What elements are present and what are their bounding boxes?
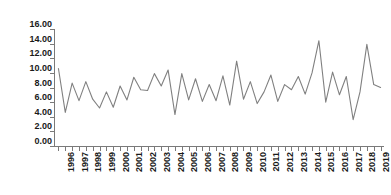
x-tick-mark [319, 147, 320, 151]
x-tick-label-2000: 2000 [121, 152, 131, 192]
x-tick-mark [360, 147, 361, 151]
x-tick-mark [264, 147, 265, 151]
x-tick-label-2017: 2017 [354, 152, 364, 192]
x-tick-label-1997: 1997 [80, 152, 90, 192]
x-tick-mark [346, 147, 347, 151]
x-tick-mark [367, 147, 368, 151]
x-tick-mark [216, 147, 217, 151]
x-tick-mark [113, 147, 114, 151]
x-tick-mark [353, 147, 354, 151]
x-tick-label-2012: 2012 [285, 152, 295, 192]
x-tick-label-2013: 2013 [299, 152, 309, 192]
x-tick-mark [202, 147, 203, 151]
y-tick-label: 2.00 [18, 121, 52, 131]
x-tick-mark [298, 147, 299, 151]
x-tick-label-2018: 2018 [367, 152, 377, 192]
x-tick-mark [175, 147, 176, 151]
x-tick-label-2015: 2015 [326, 152, 336, 192]
x-tick-mark [148, 147, 149, 151]
x-axis-tick-labels: 1996199719981999200020012002200320042005… [55, 152, 385, 194]
x-tick-mark [72, 147, 73, 151]
x-tick-mark [154, 147, 155, 151]
x-tick-mark [79, 147, 80, 151]
x-tick-mark [271, 147, 272, 151]
x-tick-label-2003: 2003 [162, 152, 172, 192]
x-tick-mark [291, 147, 292, 151]
y-tick-label: 0.00 [18, 136, 52, 146]
x-tick-label-2008: 2008 [230, 152, 240, 192]
x-tick-mark [100, 147, 101, 151]
x-tick-mark [134, 147, 135, 151]
x-tick-mark [168, 147, 169, 151]
x-tick-mark [381, 147, 382, 151]
x-tick-label-1996: 1996 [66, 152, 76, 192]
x-tick-mark [243, 147, 244, 151]
x-tick-label-2010: 2010 [258, 152, 268, 192]
y-tick-label: 14.00 [18, 34, 52, 44]
x-tick-mark [237, 147, 238, 151]
series-polyline [58, 41, 380, 120]
y-tick-label: 16.00 [18, 19, 52, 29]
x-tick-mark [65, 147, 66, 151]
x-tick-mark [120, 147, 121, 151]
series-line-water-level [55, 29, 384, 146]
x-axis-tick-marks [55, 147, 385, 151]
x-tick-mark [312, 147, 313, 151]
x-tick-mark [257, 147, 258, 151]
x-tick-label-2014: 2014 [313, 152, 323, 192]
x-tick-mark [161, 147, 162, 151]
x-tick-label-2006: 2006 [203, 152, 213, 192]
x-tick-label-2009: 2009 [244, 152, 254, 192]
x-tick-label-2005: 2005 [189, 152, 199, 192]
x-tick-mark [196, 147, 197, 151]
y-tick-label: 4.00 [18, 107, 52, 117]
y-axis-tick-labels: 16.0014.0012.0010.008.006.004.002.000.00 [18, 24, 52, 148]
x-tick-mark [305, 147, 306, 151]
x-tick-mark [339, 147, 340, 151]
x-tick-mark [189, 147, 190, 151]
x-tick-label-2019: 2019 [381, 152, 391, 192]
x-tick-mark [326, 147, 327, 151]
x-tick-mark [93, 147, 94, 151]
x-tick-label-2016: 2016 [340, 152, 350, 192]
x-tick-mark [58, 147, 59, 151]
x-tick-mark [141, 147, 142, 151]
y-tick-label: 12.00 [18, 48, 52, 58]
x-tick-label-1998: 1998 [93, 152, 103, 192]
y-tick-label: 10.00 [18, 63, 52, 73]
y-tick-label: 8.00 [18, 78, 52, 88]
x-tick-mark [250, 147, 251, 151]
x-tick-mark [223, 147, 224, 151]
x-tick-label-1999: 1999 [107, 152, 117, 192]
x-tick-label-2011: 2011 [271, 152, 281, 192]
x-tick-mark [230, 147, 231, 151]
y-tick-label: 6.00 [18, 92, 52, 102]
x-tick-mark [86, 147, 87, 151]
x-tick-label-2004: 2004 [176, 152, 186, 192]
x-tick-mark [333, 147, 334, 151]
x-tick-label-2002: 2002 [148, 152, 158, 192]
x-tick-label-2007: 2007 [217, 152, 227, 192]
x-tick-mark [106, 147, 107, 151]
x-tick-mark [182, 147, 183, 151]
x-tick-label-2001: 2001 [134, 152, 144, 192]
x-tick-mark [374, 147, 375, 151]
plot-area [55, 29, 384, 146]
x-tick-mark [127, 147, 128, 151]
x-tick-mark [278, 147, 279, 151]
x-tick-mark [209, 147, 210, 151]
x-tick-mark [285, 147, 286, 151]
